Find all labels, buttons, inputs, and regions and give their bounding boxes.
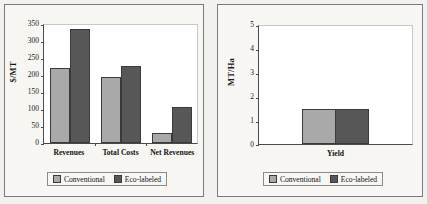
right-plot-area (258, 25, 413, 145)
left-plot-area (43, 24, 198, 144)
right-bar-groups (259, 26, 412, 144)
y-tick: 50 (32, 122, 40, 130)
legend-label-ecolabeled: Eco-labeled (125, 175, 161, 184)
legend-item-ecolabeled: Eco-labeled (114, 175, 161, 184)
bar-conventional-yield (302, 109, 336, 144)
bar-conventional-revenues (50, 68, 70, 143)
left-x-tick-labels: Revenues Total Costs Net Revenues (43, 148, 198, 157)
bar-group-net-revenues (146, 25, 197, 143)
y-tick: 350 (28, 20, 39, 28)
bar-group-revenues (44, 25, 95, 143)
y-tick: 5 (250, 21, 254, 29)
y-tick: 0 (35, 139, 39, 147)
y-tick: 4 (250, 45, 254, 53)
y-tick: 150 (28, 88, 39, 96)
right-x-tick-labels: Yield (258, 149, 413, 158)
left-legend: Conventional Eco-labeled (47, 172, 167, 186)
legend-swatch-ecolabeled (330, 175, 338, 183)
bar-conventional-net-revenues (152, 133, 172, 143)
left-bar-groups (44, 25, 197, 143)
legend-item-conventional: Conventional (53, 175, 105, 184)
y-tick: 200 (28, 71, 39, 79)
y-tick: 0 (250, 141, 254, 149)
legend-swatch-conventional (53, 175, 61, 183)
bar-ecolabeled-total-costs (121, 66, 141, 143)
y-tick: 250 (28, 54, 39, 62)
bar-group-total-costs (95, 25, 146, 143)
bar-ecolabeled-yield (335, 109, 369, 144)
legend-label-conventional: Conventional (280, 175, 321, 184)
left-y-tick-labels: 350 300 250 200 150 100 50 0 (17, 5, 39, 198)
x-label-net-revenues: Net Revenues (146, 148, 198, 157)
y-tick: 100 (28, 105, 39, 113)
bar-group-yield (259, 26, 412, 144)
y-tick: 1 (250, 117, 254, 125)
right-y-tick-labels: 5 4 3 2 1 0 (232, 5, 254, 198)
y-tick: 300 (28, 37, 39, 45)
bar-ecolabeled-net-revenues (172, 107, 192, 143)
chart-panel-left: $/MT 350 300 250 200 150 100 50 0 (4, 4, 204, 197)
legend-label-ecolabeled: Eco-labeled (341, 175, 377, 184)
right-legend: Conventional Eco-labeled (263, 172, 383, 186)
y-tick: 3 (250, 69, 254, 77)
legend-item-ecolabeled: Eco-labeled (330, 175, 377, 184)
legend-swatch-ecolabeled (114, 175, 122, 183)
x-label-total-costs: Total Costs (95, 148, 147, 157)
bar-ecolabeled-revenues (70, 29, 90, 143)
x-label-yield: Yield (258, 149, 413, 158)
bar-conventional-total-costs (101, 77, 121, 143)
legend-item-conventional: Conventional (269, 175, 321, 184)
legend-swatch-conventional (269, 175, 277, 183)
legend-label-conventional: Conventional (64, 175, 105, 184)
chart-panel-right: MT/Ha 5 4 3 2 1 0 (217, 4, 423, 197)
figure-sheet: $/MT 350 300 250 200 150 100 50 0 (0, 0, 427, 204)
x-label-revenues: Revenues (43, 148, 95, 157)
y-tick: 2 (250, 93, 254, 101)
